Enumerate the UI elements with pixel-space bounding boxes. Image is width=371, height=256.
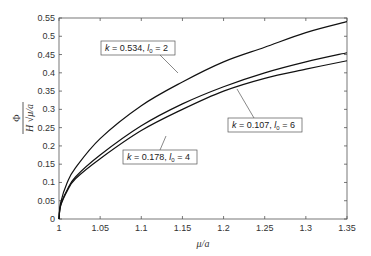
y-tick-label: 0.05 (37, 196, 55, 206)
annotation-label: k = 0.534, l0 = 2 (105, 43, 168, 54)
y-tick-label: 0.45 (37, 50, 55, 60)
annotation-1: k = 0.178, l0 = 4 (123, 136, 197, 164)
axis-ticks: 11.051.11.151.21.251.31.3500.050.10.150.… (37, 13, 355, 233)
x-tick-label: 1.15 (174, 223, 192, 233)
leader-line (237, 89, 254, 118)
annotations: k = 0.534, l0 = 2k = 0.178, l0 = 4k = 0.… (101, 41, 302, 164)
svg-text:Φ: Φ (11, 114, 22, 121)
y-tick-label: 0.1 (42, 177, 55, 187)
y-tick-label: 0.5 (42, 31, 55, 41)
y-axis-label: Φ H √μ/a (11, 102, 35, 134)
y-tick-label: 0.15 (37, 159, 55, 169)
line-chart: 11.051.11.151.21.251.31.3500.050.10.150.… (0, 0, 371, 256)
x-tick-label: 1.35 (338, 223, 356, 233)
leader-line (160, 55, 178, 73)
x-tick-label: 1.1 (135, 223, 148, 233)
y-tick-label: 0.4 (42, 68, 55, 78)
y-tick-label: 0.25 (37, 123, 55, 133)
x-axis-label: μ/a (196, 238, 210, 249)
y-tick-label: 0.35 (37, 86, 55, 96)
x-tick-label: 1.05 (91, 223, 109, 233)
x-tick-label: 1.25 (256, 223, 274, 233)
y-tick-label: 0.2 (42, 141, 55, 151)
annotation-label: k = 0.178, l0 = 4 (127, 152, 190, 163)
y-tick-label: 0.3 (42, 104, 55, 114)
curve-series-2 (59, 61, 347, 219)
annotation-2: k = 0.107, l0 = 6 (228, 89, 302, 132)
annotation-0: k = 0.534, l0 = 2 (101, 41, 178, 73)
leader-line (160, 136, 166, 150)
y-tick-label: 0 (50, 214, 55, 224)
svg-text:H √μ/a: H √μ/a (24, 104, 35, 133)
x-tick-label: 1 (56, 223, 61, 233)
y-tick-label: 0.55 (37, 13, 55, 23)
annotation-label: k = 0.107, l0 = 6 (232, 120, 295, 131)
x-tick-label: 1.2 (217, 223, 230, 233)
x-tick-label: 1.3 (300, 223, 313, 233)
curve-series-1 (59, 53, 347, 219)
